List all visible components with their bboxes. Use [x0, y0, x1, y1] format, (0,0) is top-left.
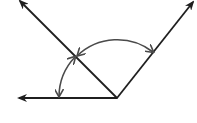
- ray-upper-left: [20, 1, 117, 98]
- arc-angle-large: [77, 40, 153, 56]
- vertex-point: [116, 97, 118, 99]
- arc-angle-small: [59, 57, 75, 97]
- angle-diagram: [0, 0, 197, 123]
- ray-upper-right: [117, 2, 193, 98]
- diagram-svg: [0, 0, 197, 123]
